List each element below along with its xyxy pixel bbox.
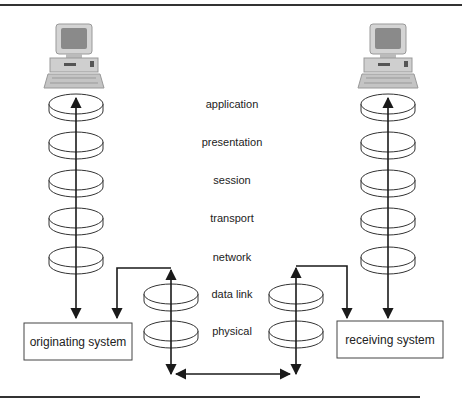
layer-label: application [206, 98, 259, 110]
receiving-computer-icon [358, 24, 418, 88]
layer-label: presentation [202, 136, 263, 148]
layer-label: session [213, 174, 250, 186]
layer-label: transport [210, 212, 253, 224]
layer-label: network [213, 251, 252, 263]
layer-label: physical [212, 325, 252, 337]
layer-label: data link [212, 288, 253, 300]
originating-system-label: originating system [30, 335, 127, 349]
receiving-system-label: receiving system [345, 333, 434, 347]
originating-computer-icon [44, 24, 104, 88]
osi-diagram: originating system receiving system appl… [0, 0, 462, 403]
